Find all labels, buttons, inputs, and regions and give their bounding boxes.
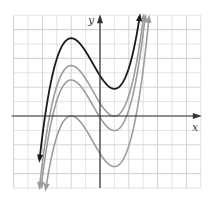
curve-arrow-down-icon [44,183,50,191]
curves [37,13,151,191]
y-axis-label: y [87,14,95,27]
cubic-curve [46,18,149,189]
curve-arrow-up-icon [136,13,142,21]
cubic-graph: y x [0,0,211,197]
cubic-curve [40,16,140,159]
x-axis-label: x [192,121,199,134]
y-axis-arrow-icon [97,14,103,23]
